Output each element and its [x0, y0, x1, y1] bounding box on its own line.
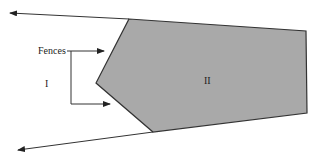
fences-diagram: Fences I II	[0, 0, 321, 160]
fences-label: Fences	[38, 45, 66, 56]
upper-boundary-ray-arrow-icon	[10, 13, 129, 19]
lower-boundary-ray-arrow-icon	[18, 132, 153, 150]
region-ii-polygon	[96, 19, 307, 132]
region-ii-label: II	[204, 75, 211, 86]
region-i-label: I	[45, 78, 48, 89]
